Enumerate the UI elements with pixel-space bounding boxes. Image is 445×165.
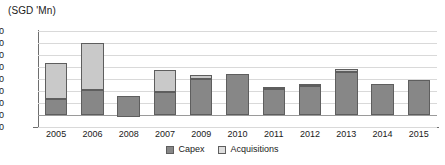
bar-group[interactable] bbox=[154, 31, 176, 127]
bar-group[interactable] bbox=[299, 31, 321, 127]
x-tick-label: 2007 bbox=[147, 129, 183, 140]
legend-item-capex[interactable]: Capex bbox=[166, 145, 204, 154]
bar-segment-acquisitions[interactable] bbox=[335, 69, 357, 73]
legend-item-acq[interactable]: Acquisitions bbox=[218, 145, 278, 154]
bar-segment-acquisitions[interactable] bbox=[190, 75, 212, 79]
gridline bbox=[38, 127, 437, 128]
bar-group[interactable] bbox=[117, 31, 139, 127]
y-tick-label: 300 bbox=[0, 75, 4, 84]
bar-segment-acquisitions[interactable] bbox=[263, 87, 285, 89]
bar-segment-capex[interactable] bbox=[45, 99, 67, 115]
legend-swatch-icon bbox=[218, 146, 226, 154]
bar-segment-capex[interactable] bbox=[335, 72, 357, 115]
bar-group[interactable] bbox=[45, 31, 67, 127]
x-tick-label: 2010 bbox=[219, 129, 255, 140]
bar-segment-capex[interactable] bbox=[299, 86, 321, 115]
y-tick-label: 100 bbox=[0, 99, 4, 108]
chart-root: (SGD 'Mn) 7006005004003002001000-100 200… bbox=[0, 0, 445, 165]
legend-label: Capex bbox=[178, 145, 204, 154]
x-tick-label: 2013 bbox=[328, 129, 364, 140]
chart-legend: CapexAcquisitions bbox=[0, 145, 445, 154]
x-tick-label: 2014 bbox=[364, 129, 400, 140]
bar-series-group bbox=[38, 31, 437, 127]
bar-segment-capex[interactable] bbox=[263, 89, 285, 115]
x-tick-label: 2012 bbox=[292, 129, 328, 140]
x-tick-label: 2008 bbox=[111, 129, 147, 140]
bar-group[interactable] bbox=[81, 31, 103, 127]
bar-segment-capex[interactable] bbox=[226, 74, 248, 115]
x-tick-label: 2011 bbox=[256, 129, 292, 140]
x-axis-tick-labels: 2005200620082007200920102011201220132014… bbox=[0, 129, 445, 143]
bar-group[interactable] bbox=[263, 31, 285, 127]
y-tick-label: 0 bbox=[0, 111, 4, 120]
bar-group[interactable] bbox=[371, 31, 393, 127]
bar-segment-capex[interactable] bbox=[81, 90, 103, 115]
bar-segment-capex[interactable] bbox=[190, 79, 212, 115]
legend-label: Acquisitions bbox=[230, 145, 278, 154]
bar-segment-capex[interactable] bbox=[117, 96, 139, 116]
bar-segment-capex[interactable] bbox=[154, 92, 176, 115]
bar-group[interactable] bbox=[335, 31, 357, 127]
bar-group[interactable] bbox=[190, 31, 212, 127]
y-tick-label: 200 bbox=[0, 87, 4, 96]
bar-segment-acquisitions[interactable] bbox=[81, 43, 103, 90]
y-tick-label: 400 bbox=[0, 63, 4, 72]
x-tick-label: 2006 bbox=[74, 129, 110, 140]
y-tick-label: 700 bbox=[0, 27, 4, 36]
x-tick-label: 2005 bbox=[38, 129, 74, 140]
plot-area bbox=[38, 31, 437, 127]
x-tick-label: 2015 bbox=[401, 129, 437, 140]
x-tick-label: 2009 bbox=[183, 129, 219, 140]
bar-segment-acquisitions[interactable] bbox=[299, 84, 321, 86]
bar-segment-capex[interactable] bbox=[371, 84, 393, 115]
y-tick-label: 500 bbox=[0, 51, 4, 60]
y-tick-label: 600 bbox=[0, 39, 4, 48]
bar-segment-capex[interactable] bbox=[408, 80, 430, 115]
bar-group[interactable] bbox=[408, 31, 430, 127]
bar-segment-acquisitions[interactable] bbox=[154, 70, 176, 92]
bar-segment-acquisitions[interactable] bbox=[45, 63, 67, 99]
bar-group[interactable] bbox=[226, 31, 248, 127]
legend-swatch-icon bbox=[166, 146, 174, 154]
